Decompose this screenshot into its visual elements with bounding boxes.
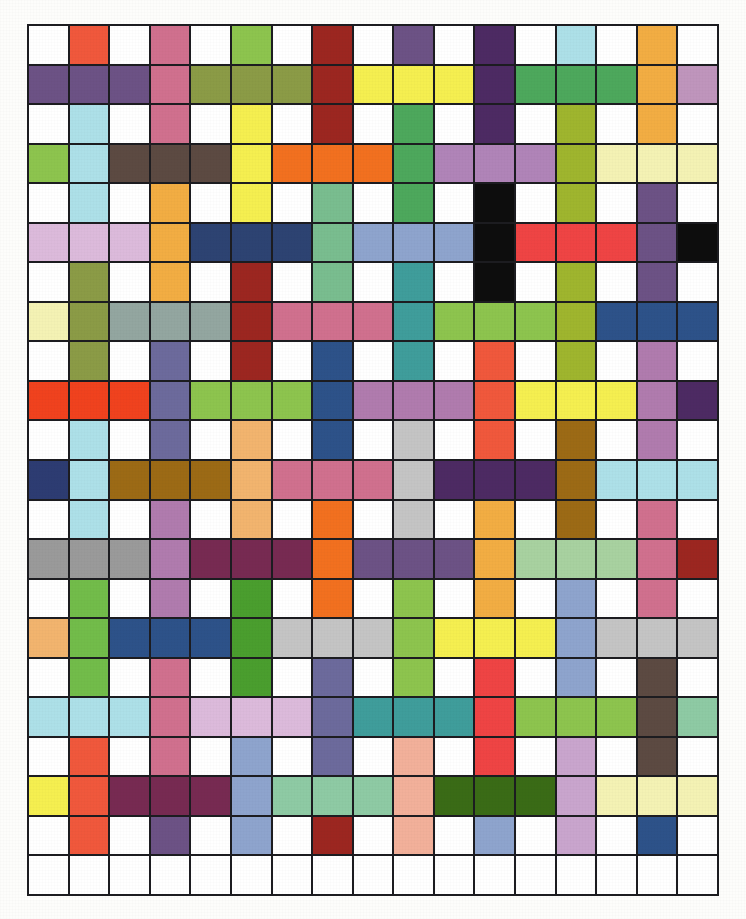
grid-cell	[638, 540, 677, 578]
grid-cell	[678, 659, 717, 697]
grid-cell	[516, 105, 555, 143]
grid-cell	[638, 224, 677, 262]
grid-cell	[232, 342, 271, 380]
grid-cell	[678, 619, 717, 657]
grid-cell	[110, 540, 149, 578]
grid-cell	[597, 421, 636, 459]
grid-cell	[70, 777, 109, 815]
grid-cell	[29, 698, 68, 736]
grid-cell	[70, 26, 109, 64]
grid-cell	[70, 303, 109, 341]
grid-cell	[313, 698, 352, 736]
grid-cell	[557, 145, 596, 183]
grid-cell	[110, 461, 149, 499]
grid-cell	[394, 224, 433, 262]
grid-cell	[191, 263, 230, 301]
grid-cell	[354, 580, 393, 618]
grid-cell	[678, 184, 717, 222]
grid-cell	[394, 659, 433, 697]
grid-cell	[435, 26, 474, 64]
grid-cell	[516, 303, 555, 341]
grid-cell	[638, 659, 677, 697]
grid-cell	[394, 342, 433, 380]
grid-cell	[191, 184, 230, 222]
grid-cell	[191, 817, 230, 855]
grid-cell	[273, 66, 312, 104]
grid-cell	[597, 461, 636, 499]
grid-cell	[435, 105, 474, 143]
grid-cell	[516, 738, 555, 776]
grid-cell	[273, 263, 312, 301]
grid-cell	[70, 698, 109, 736]
grid-cell	[110, 66, 149, 104]
grid-cell	[151, 698, 190, 736]
grid-cell	[597, 659, 636, 697]
grid-cell	[191, 777, 230, 815]
grid-cell	[475, 659, 514, 697]
grid-cell	[435, 224, 474, 262]
grid-cell	[354, 777, 393, 815]
grid-cell	[70, 501, 109, 539]
grid-cell	[313, 501, 352, 539]
grid-cell	[557, 224, 596, 262]
grid-cell	[678, 698, 717, 736]
grid-cell	[191, 738, 230, 776]
grid-cell	[557, 777, 596, 815]
grid-cell	[597, 303, 636, 341]
grid-cell	[557, 105, 596, 143]
grid-cell	[354, 26, 393, 64]
grid-cell	[29, 421, 68, 459]
grid-cell	[232, 619, 271, 657]
grid-cell	[597, 738, 636, 776]
grid-cell	[313, 580, 352, 618]
grid-cell	[273, 382, 312, 420]
grid-cell	[435, 382, 474, 420]
grid-cell	[475, 540, 514, 578]
grid-cell	[70, 66, 109, 104]
grid-cell	[110, 145, 149, 183]
grid-cell	[678, 856, 717, 894]
grid-cell	[29, 659, 68, 697]
grid-cell	[313, 263, 352, 301]
grid-cell	[394, 540, 433, 578]
grid-cell	[394, 145, 433, 183]
grid-cell	[232, 66, 271, 104]
grid-cell	[232, 382, 271, 420]
grid-cell	[191, 224, 230, 262]
grid-cell	[435, 659, 474, 697]
grid-cell	[475, 817, 514, 855]
grid-cell	[29, 105, 68, 143]
grid-cell	[151, 263, 190, 301]
grid-cell	[557, 421, 596, 459]
grid-cell	[29, 817, 68, 855]
grid-cell	[475, 382, 514, 420]
grid-cell	[516, 777, 555, 815]
grid-cell	[597, 26, 636, 64]
grid-cell	[557, 540, 596, 578]
grid-cell	[394, 698, 433, 736]
color-grid	[27, 24, 719, 896]
grid-cell	[557, 619, 596, 657]
grid-cell	[29, 66, 68, 104]
grid-cell	[354, 856, 393, 894]
grid-cell	[151, 501, 190, 539]
grid-cell	[191, 421, 230, 459]
grid-cell	[435, 738, 474, 776]
grid-cell	[313, 382, 352, 420]
grid-cell	[273, 619, 312, 657]
grid-cell	[394, 263, 433, 301]
grid-cell	[110, 777, 149, 815]
grid-cell	[435, 421, 474, 459]
grid-cell	[110, 501, 149, 539]
grid-cell	[29, 501, 68, 539]
grid-cell	[313, 303, 352, 341]
grid-cell	[232, 659, 271, 697]
grid-cell	[597, 501, 636, 539]
grid-cell	[638, 580, 677, 618]
grid-cell	[151, 580, 190, 618]
grid-cell	[516, 698, 555, 736]
grid-cell	[232, 540, 271, 578]
grid-cell	[394, 461, 433, 499]
grid-cell	[110, 263, 149, 301]
grid-cell	[557, 382, 596, 420]
